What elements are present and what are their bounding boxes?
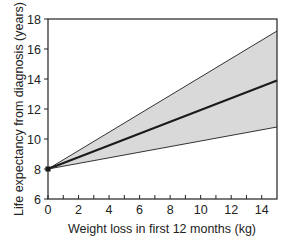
x-axis-ticks: 02468101214 <box>45 195 269 217</box>
x-tick-label: 4 <box>106 203 113 217</box>
x-tick-label: 10 <box>194 203 208 217</box>
y-tick-label: 6 <box>34 193 41 207</box>
y-tick-label: 18 <box>27 13 41 27</box>
x-tick-label: 12 <box>224 203 238 217</box>
chart: 02468101214 681012141618 Weight loss in … <box>0 0 292 249</box>
y-tick-label: 16 <box>27 43 41 57</box>
x-tick-label: 8 <box>167 203 174 217</box>
y-tick-label: 12 <box>27 103 41 117</box>
y-axis-title: Life expectancy from diagnosis (years) <box>12 2 26 216</box>
x-tick-label: 6 <box>136 203 143 217</box>
x-tick-label: 2 <box>75 203 82 217</box>
y-tick-label: 14 <box>27 73 41 87</box>
x-axis-title: Weight loss in first 12 months (kg) <box>68 222 256 236</box>
y-tick-label: 8 <box>34 163 41 177</box>
y-axis-ticks: 681012141618 <box>27 13 48 207</box>
x-tick-label: 0 <box>45 203 52 217</box>
x-tick-label: 14 <box>255 203 269 217</box>
y-tick-label: 10 <box>27 133 41 147</box>
